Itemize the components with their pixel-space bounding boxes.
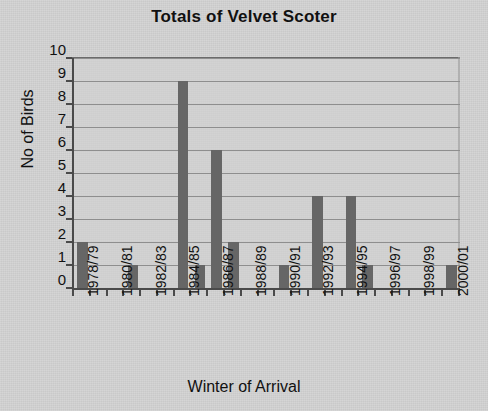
y-axis-tick-mark <box>66 218 72 220</box>
gridline <box>74 81 460 82</box>
x-axis-tick-label: 1986/87 <box>220 245 236 296</box>
y-axis-tick-labels: 012345678910 <box>30 50 66 296</box>
y-axis-tick-label: 3 <box>30 203 66 219</box>
y-axis-tick-label: 10 <box>30 42 66 58</box>
x-axis-tick-label: 1998/99 <box>421 245 437 296</box>
x-axis-tick-mark <box>106 290 108 296</box>
x-axis-tick-mark <box>408 290 410 296</box>
x-axis-tick-mark <box>273 290 275 296</box>
y-axis-tick-mark <box>66 149 72 151</box>
y-axis-tick-mark <box>66 103 72 105</box>
gridline <box>74 127 460 128</box>
x-axis-tick-mark <box>240 290 242 296</box>
x-axis-tick-mark <box>206 290 208 296</box>
gridline <box>74 173 460 174</box>
y-axis-tick-mark <box>66 287 72 289</box>
gridline <box>74 242 460 243</box>
chart-page: Totals of Velvet Scoter No of Birds 0123… <box>0 0 488 411</box>
y-axis-tick-label: 9 <box>30 65 66 81</box>
y-axis-tick-label: 6 <box>30 134 66 150</box>
gridline <box>74 58 460 59</box>
x-axis-tick-label: 1982/83 <box>153 245 169 296</box>
y-axis-tick-mark <box>66 195 72 197</box>
y-axis-tick-label: 2 <box>30 226 66 242</box>
y-axis-tick-label: 1 <box>30 249 66 265</box>
x-axis-tick-label: 1978/79 <box>85 245 101 296</box>
x-axis-tick-mark <box>307 290 309 296</box>
x-axis-tick-label: 1988/89 <box>253 245 269 296</box>
x-axis-tick-label: 1994/95 <box>354 245 370 296</box>
y-axis-tick-mark <box>66 241 72 243</box>
gridline <box>74 219 460 220</box>
x-axis-tick-mark <box>441 290 443 296</box>
y-axis-tick-label: 0 <box>30 272 66 288</box>
x-axis-tick-mark <box>139 290 141 296</box>
y-axis-tick-mark <box>66 80 72 82</box>
y-axis-tick-mark <box>66 126 72 128</box>
x-axis-tick-mark <box>374 290 376 296</box>
y-axis-tick-label: 4 <box>30 180 66 196</box>
gridline <box>74 104 460 105</box>
x-axis-tick-label: 1990/91 <box>287 245 303 296</box>
gridline <box>74 150 460 151</box>
gridline <box>74 196 460 197</box>
x-axis-tick-mark <box>173 290 175 296</box>
x-axis-title: Winter of Arrival <box>0 378 488 396</box>
y-axis-tick-label: 8 <box>30 88 66 104</box>
x-axis-tick-label: 2000/01 <box>455 245 471 296</box>
y-axis-tick-mark <box>66 264 72 266</box>
x-axis-tick-label: 1996/97 <box>387 245 403 296</box>
y-axis-tick-label: 5 <box>30 157 66 173</box>
x-axis-tick-label: 1984/85 <box>186 245 202 296</box>
y-axis-tick-mark <box>66 172 72 174</box>
x-axis-tick-label: 1992/93 <box>320 245 336 296</box>
y-axis-tick-label: 7 <box>30 111 66 127</box>
x-axis-tick-mark <box>72 290 74 296</box>
x-axis-tick-label: 1980/81 <box>119 245 135 296</box>
x-axis-tick-mark <box>341 290 343 296</box>
y-axis-tick-mark <box>66 57 72 59</box>
chart-title: Totals of Velvet Scoter <box>0 7 488 27</box>
